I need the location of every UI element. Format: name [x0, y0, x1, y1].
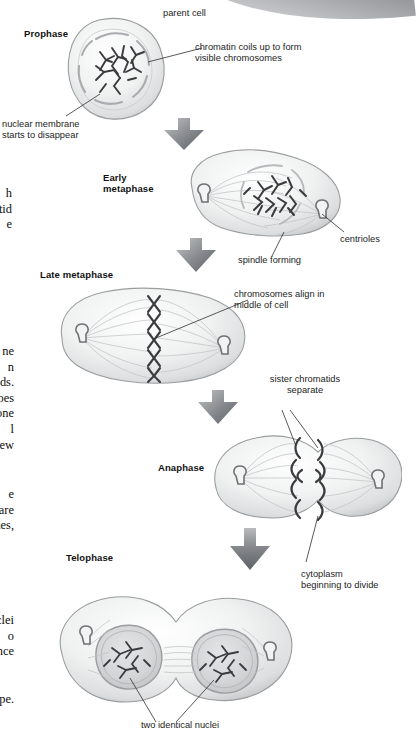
- body-text-fragment-4: nuclei o once: [0, 613, 14, 660]
- phase-label-late-metaphase: Late metaphase: [40, 269, 113, 280]
- anaphase-cell: [215, 436, 402, 520]
- centriole: [264, 642, 276, 660]
- daughter-nucleus-left: [96, 625, 162, 689]
- late-metaphase-cell: [61, 288, 244, 383]
- centriole: [198, 184, 210, 202]
- callout-spindle-forming: spindle forming: [238, 255, 301, 266]
- early-metaphase-cell: [191, 150, 340, 236]
- telophase-cell: [60, 597, 292, 702]
- centriole: [234, 466, 246, 484]
- phase-label-prophase: Prophase: [24, 28, 68, 39]
- centriole: [218, 336, 230, 354]
- callout-sister-chromatids: sister chromatids separate: [252, 374, 358, 397]
- daughter-nucleus-right: [192, 629, 258, 693]
- callout-cytoplasm: cytoplasm beginning to divide: [301, 569, 379, 592]
- callout-centrioles: centrioles: [340, 234, 380, 245]
- prophase-cell: [68, 18, 164, 119]
- arrow-anaphase-to-telophase: [230, 528, 270, 570]
- centriole: [372, 470, 384, 488]
- callout-chromosomes-align: chromosomes align in middle of cell: [234, 289, 324, 312]
- body-text-fragment-2: ne n atids. oes one l new: [0, 344, 14, 453]
- callout-parent-cell: parent cell: [163, 8, 206, 19]
- centriole: [80, 626, 92, 644]
- callout-chromatin: chromatin coils up to form visible chrom…: [195, 42, 301, 65]
- phase-label-early-metaphase: Early metaphase: [103, 172, 154, 194]
- body-text-fragment-3: e re are nes,: [0, 487, 14, 534]
- phase-label-anaphase: Anaphase: [158, 462, 204, 473]
- arrow-late-metaphase-to-anaphase: [198, 390, 238, 424]
- phase-label-telophase: Telophase: [66, 552, 113, 563]
- corner-decoration-band: [178, 0, 416, 40]
- arrow-prophase-to-early-metaphase: [164, 118, 204, 150]
- centriole: [316, 200, 328, 218]
- callout-nuclear-membrane: nuclear membrane starts to disappear: [2, 119, 80, 142]
- arrow-early-to-late-metaphase: [176, 238, 216, 272]
- callout-two-identical-nuclei: two identical nuclei: [110, 720, 250, 731]
- body-text-fragment-1: h matid e: [0, 186, 12, 233]
- body-text-fragment-5: scope.: [0, 692, 14, 708]
- centriole: [76, 324, 88, 342]
